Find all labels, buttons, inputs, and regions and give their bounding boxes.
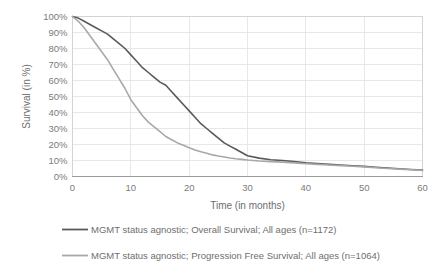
x-tick-label: 30 xyxy=(242,182,253,193)
survival-chart: 0%10%20%30%40%50%60%70%80%90%100% 010203… xyxy=(0,0,447,279)
y-axis-title: Survival (in %) xyxy=(21,64,32,128)
y-tick-label: 10% xyxy=(48,155,68,166)
chart-canvas: 0%10%20%30%40%50%60%70%80%90%100% 010203… xyxy=(0,0,447,279)
legend-item: MGMT status agnostic; Overall Survival; … xyxy=(62,224,336,235)
y-tick-label: 0% xyxy=(54,171,68,182)
y-tick-label: 30% xyxy=(48,123,68,134)
x-tick-label: 40 xyxy=(301,182,312,193)
x-axis-tick-labels: 0102030405060 xyxy=(70,182,428,193)
gridlines xyxy=(73,17,423,177)
x-tick-label: 50 xyxy=(359,182,370,193)
x-tick-label: 20 xyxy=(184,182,195,193)
y-tick-label: 100% xyxy=(43,11,68,22)
x-tick-label: 60 xyxy=(417,182,428,193)
x-axis-title: Time (in months) xyxy=(210,200,285,211)
y-tick-label: 90% xyxy=(48,27,68,38)
y-tick-label: 40% xyxy=(48,107,68,118)
chart-legend: MGMT status agnostic; Overall Survival; … xyxy=(62,224,380,261)
y-tick-label: 20% xyxy=(48,139,68,150)
x-tick-label: 10 xyxy=(126,182,137,193)
y-axis-tick-labels: 0%10%20%30%40%50%60%70%80%90%100% xyxy=(43,11,68,182)
y-tick-label: 60% xyxy=(48,75,68,86)
y-tick-label: 80% xyxy=(48,43,68,54)
y-tick-label: 70% xyxy=(48,59,68,70)
legend-item: MGMT status agnostic; Progression Free S… xyxy=(62,250,380,261)
legend-label: MGMT status agnostic; Progression Free S… xyxy=(91,250,380,261)
y-tick-label: 50% xyxy=(48,91,68,102)
legend-label: MGMT status agnostic; Overall Survival; … xyxy=(91,224,336,235)
x-tick-label: 0 xyxy=(70,182,75,193)
